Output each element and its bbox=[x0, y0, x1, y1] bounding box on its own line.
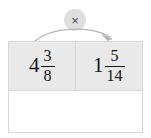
denominator-right: 14 bbox=[105, 68, 125, 84]
operand-cell-right[interactable]: 1 5 14 bbox=[76, 42, 143, 90]
fraction-right: 5 14 bbox=[105, 48, 125, 84]
calculation-table: 4 3 8 1 5 14 bbox=[8, 41, 143, 133]
operand-row: 4 3 8 1 5 14 bbox=[9, 42, 142, 91]
numerator-left: 3 bbox=[42, 48, 54, 64]
denominator-left: 8 bbox=[42, 68, 54, 84]
fraction-left: 3 8 bbox=[41, 48, 55, 84]
multiply-icon: × bbox=[71, 14, 79, 27]
whole-number-left: 4 bbox=[29, 55, 40, 77]
answer-row[interactable] bbox=[9, 91, 142, 132]
operand-cell-left[interactable]: 4 3 8 bbox=[9, 42, 76, 90]
mixed-number-right: 1 5 14 bbox=[93, 48, 125, 84]
whole-number-right: 1 bbox=[93, 55, 104, 77]
mixed-number-left: 4 3 8 bbox=[29, 48, 55, 84]
fraction-multiplication-widget: × 4 3 8 1 5 bbox=[0, 0, 151, 138]
numerator-right: 5 bbox=[109, 48, 121, 64]
